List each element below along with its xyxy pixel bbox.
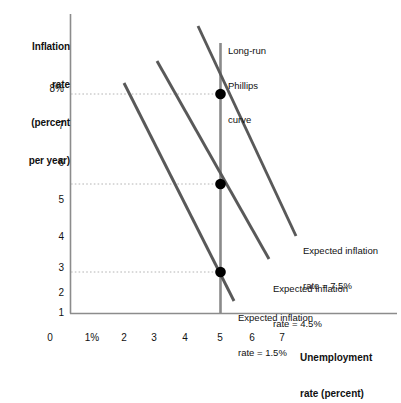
- y-tick-label-1: 1: [38, 308, 64, 318]
- y-axis-title-line1: Inflation: [8, 41, 70, 54]
- lrpc-label-line3: curve: [228, 114, 266, 126]
- data-point-u5-pi7-5: [215, 89, 226, 100]
- x-axis-title-line2: rate (percent): [300, 388, 396, 400]
- x-tick-label-4: 4: [173, 333, 197, 343]
- y-tick-label-8: 8%: [38, 84, 64, 94]
- y-tick-label-4: 4: [38, 232, 64, 242]
- origin-label: 0: [38, 333, 62, 343]
- long-run-phillips-curve-label: Long-run Phillips curve: [228, 22, 266, 149]
- y-tick-label-3: 3: [38, 263, 64, 273]
- y-tick-label-7: 7: [38, 121, 64, 131]
- lrpc-label-line2: Phillips: [228, 80, 266, 92]
- data-point-u5-pi1-5: [215, 267, 226, 278]
- x-axis-title-line1: Unemployment: [300, 352, 396, 364]
- data-point-u5-pi4-5: [215, 179, 226, 190]
- x-tick-label-2: 2: [112, 333, 136, 343]
- x-tick-label-3: 3: [142, 333, 166, 343]
- y-tick-label-6: 6: [38, 158, 64, 168]
- x-tick-label-5: 5: [208, 333, 232, 343]
- expected-inflation-1-5-line2: rate = 1.5%: [238, 347, 313, 359]
- y-tick-label-5: 5: [38, 195, 64, 205]
- expected-inflation-label-1-5: Expected inflation rate = 1.5%: [238, 289, 313, 381]
- y-tick-label-2: 2: [38, 288, 64, 298]
- x-tick-label-1: 1%: [80, 333, 104, 343]
- lrpc-label-line1: Long-run: [228, 45, 266, 57]
- expected-inflation-1-5-line1: Expected inflation: [238, 312, 313, 324]
- expected-inflation-7-5-line1: Expected inflation: [303, 245, 378, 257]
